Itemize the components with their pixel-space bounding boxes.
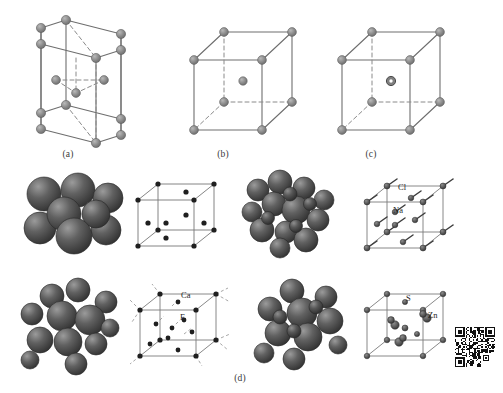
caption-b: (b) — [203, 149, 243, 159]
caption-a: (a) — [48, 149, 88, 159]
qr-code[interactable] — [455, 327, 495, 367]
caption-c: (c) — [351, 149, 391, 159]
panel-b-bcc — [182, 18, 302, 148]
spacefill-model-nacl — [240, 170, 348, 258]
crystal-structure-figure: (a) — [0, 0, 503, 393]
atom-group-c — [338, 28, 445, 135]
unit-cell-fcc — [130, 176, 226, 256]
label-ca: Ca — [181, 290, 190, 300]
label-cl: Cl — [398, 182, 406, 192]
label-na: Na — [393, 205, 403, 215]
spacefill-model-fcc — [20, 172, 125, 254]
body-center-atom — [239, 77, 247, 85]
atom-group-a — [36, 15, 125, 147]
panel-a-hcp — [8, 10, 148, 155]
atom-group-b — [190, 28, 297, 135]
spacefill-model-caf2 — [18, 278, 128, 373]
caption-d: (d) — [220, 373, 260, 383]
label-zn: Zn — [428, 310, 437, 320]
panel-c-cscl — [330, 18, 450, 148]
label-s: S — [406, 293, 411, 303]
spacefill-model-zns — [250, 275, 360, 375]
label-f: F — [180, 312, 185, 322]
unit-cell-nacl — [355, 176, 465, 258]
